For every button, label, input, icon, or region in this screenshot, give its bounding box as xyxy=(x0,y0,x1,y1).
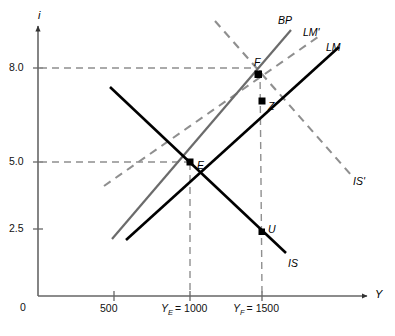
curve-label-bp: BP xyxy=(278,15,292,26)
point-label-U: U xyxy=(268,224,276,235)
curve-label-lm-prime: LM' xyxy=(303,27,320,38)
y-tick-label-2-5: 2.5 xyxy=(9,223,24,234)
x-tick-label-YF: YF= 1500 xyxy=(233,303,279,317)
curve-lm xyxy=(126,47,339,240)
curve-label-lm: LM xyxy=(326,42,341,53)
y-tick-label-5: 5.0 xyxy=(9,156,24,167)
point-label-Z: Z xyxy=(268,101,274,112)
point-marker-F xyxy=(255,71,263,79)
curve-label-is-prime: IS' xyxy=(353,176,365,187)
point-label-E: E xyxy=(197,160,204,171)
x-axis-label: Y xyxy=(375,289,382,300)
x-tick-label-YF-base: Y xyxy=(233,302,240,314)
curve-label-is: IS xyxy=(288,258,298,269)
x-tick-label-YE: YE= 1000 xyxy=(161,303,207,317)
point-marker-U xyxy=(259,229,266,236)
x-tick-label-YE-rest: = 1000 xyxy=(175,302,207,314)
curve-bp xyxy=(112,30,291,239)
point-marker-Z xyxy=(259,98,266,105)
x-tick-label-YF-sub: F xyxy=(240,308,245,317)
x-tick-label-YE-sub: E xyxy=(168,308,173,317)
x-tick-label-500: 500 xyxy=(100,303,118,314)
y-axis-label: i xyxy=(38,10,40,21)
point-marker-E xyxy=(187,159,194,166)
x-tick-label-YF-rest: = 1500 xyxy=(247,302,279,314)
y-tick-label-8: 8.0 xyxy=(9,62,24,73)
x-tick-label-YE-base: Y xyxy=(161,302,168,314)
isl-lm-bp-figure: i Y 0 8.0 5.0 2.5 500 YE= 1000 YF= 1500 … xyxy=(0,0,395,336)
origin-label: 0 xyxy=(20,302,26,313)
point-label-F: F xyxy=(254,57,260,68)
